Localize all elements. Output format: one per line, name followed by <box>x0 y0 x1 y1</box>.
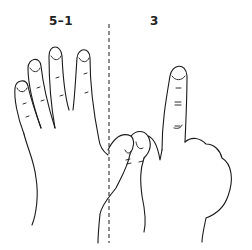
hand-drawings <box>0 0 252 250</box>
three-hand-icon <box>98 66 231 243</box>
hand-sign-figure: 5–1 3 <box>0 0 252 250</box>
open-hand-icon <box>15 47 108 225</box>
